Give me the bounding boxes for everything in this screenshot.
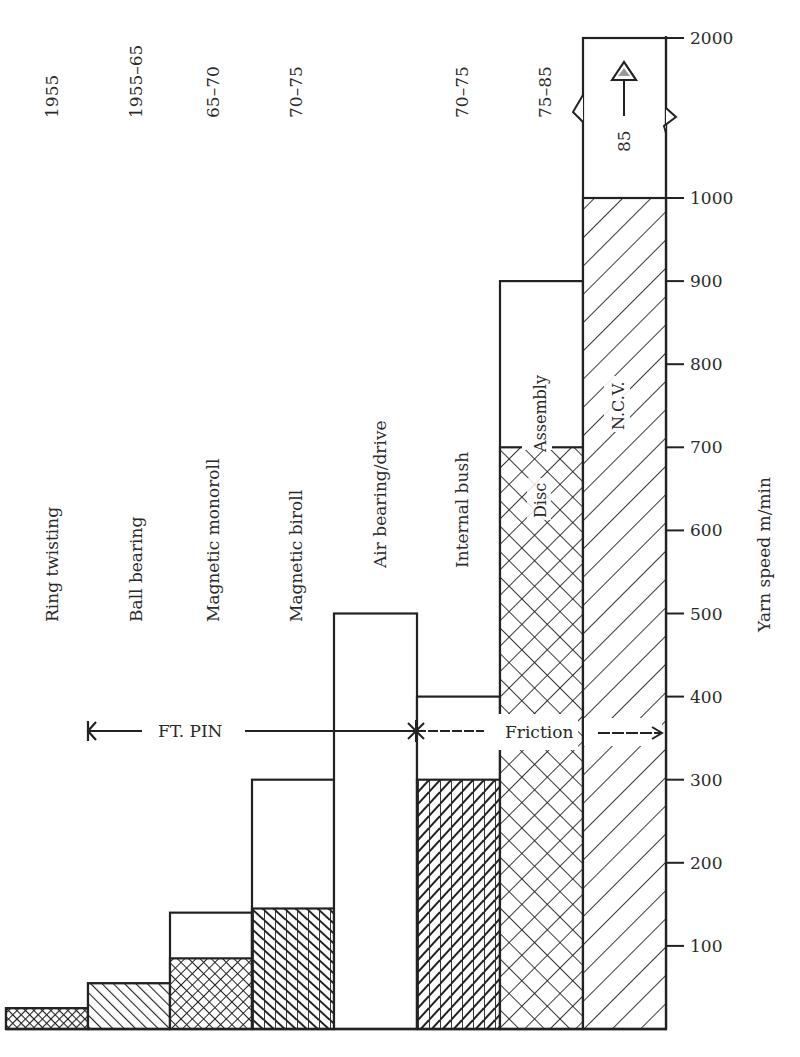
category-labels: Ring twisting1955Ball bearing1955–65Magn…	[42, 45, 555, 622]
year-label: 75–85	[535, 66, 555, 118]
y-tick-label: 200	[690, 853, 722, 873]
category-label: Ring twisting	[42, 507, 62, 622]
category-label: Internal bush	[452, 452, 472, 568]
y-tick-label: 900	[690, 271, 722, 291]
ncv-label: N.C.V.	[609, 381, 628, 430]
y-tick-label: 700	[690, 437, 722, 457]
bars-group	[6, 38, 666, 1029]
y-tick-label: 500	[690, 604, 722, 624]
y-tick-label: 100	[690, 936, 722, 956]
y-tick-label: 400	[690, 687, 722, 707]
category-label: Magnetic biroll	[286, 490, 306, 622]
bar-ball-bearing	[88, 983, 170, 1029]
y-tick-label: 600	[690, 520, 722, 540]
year-label: 65–70	[203, 66, 223, 118]
assembly-label: Assembly	[531, 375, 550, 453]
ncv-year-label: 85	[614, 130, 634, 152]
yarn-speed-chart: 10020030040050060070080090010002000 85 F…	[0, 0, 800, 1057]
disc-label: Disc	[531, 483, 550, 518]
category-label: Magnetic monoroll	[203, 459, 223, 622]
y-axis: 10020030040050060070080090010002000	[666, 28, 733, 1029]
y-tick-label: 2000	[690, 28, 733, 48]
category-label: Air bearing/drive	[370, 420, 390, 569]
y-axis-title: Yarn speed m/min	[754, 477, 774, 633]
axis-break-left	[573, 90, 583, 126]
category-label: Ball bearing	[126, 517, 146, 622]
bar-magnetic-biroll	[252, 780, 334, 1029]
friction-label: Friction	[505, 722, 573, 742]
bar-ring-twisting	[6, 1008, 88, 1029]
year-label: 1955	[42, 75, 62, 118]
year-label: 70–75	[286, 66, 306, 118]
y-tick-label: 1000	[690, 188, 733, 208]
y-tick-label: 300	[690, 770, 722, 790]
year-label: 1955–65	[126, 45, 146, 118]
bar-magnetic-monoroll	[170, 913, 252, 1029]
year-label: 70–75	[452, 66, 472, 118]
bar-air-bearing-drive	[334, 614, 417, 1030]
bar-n-c-v-	[583, 38, 666, 1029]
ft-pin-label: FT. PIN	[158, 721, 223, 741]
y-tick-label: 800	[690, 354, 722, 374]
